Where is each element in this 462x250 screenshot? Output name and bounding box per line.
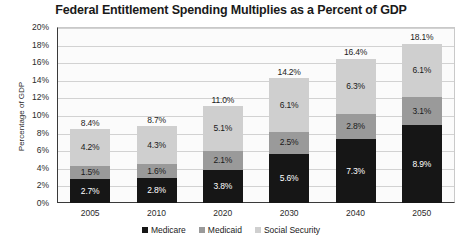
bar-segment-value-label: 2.7% [81, 187, 100, 196]
bar-segment-value-label: 6.1% [413, 66, 432, 75]
bar-segment-value-label: 8.9% [413, 160, 432, 169]
bar-stack: 6.3%2.8%7.3% [336, 59, 376, 203]
bar-segment[interactable]: 1.6% [137, 164, 177, 178]
y-axis-tick-label: 14% [32, 76, 49, 85]
bar-group[interactable]: 4.2%1.5%2.7%8.4% [70, 129, 110, 203]
bar-total-label: 8.7% [147, 116, 166, 125]
bar-segment-value-label: 5.1% [214, 124, 233, 133]
bar-total-label: 18.1% [410, 33, 433, 42]
y-axis-tick-label: 12% [32, 93, 49, 102]
bar-group[interactable]: 6.3%2.8%7.3%16.4% [336, 59, 376, 203]
legend-item[interactable]: Social Security [255, 226, 320, 235]
y-axis-tick-labels: 0%2%4%6%8%10%12%14%16%18%20% [0, 27, 53, 203]
x-axis-tick-label: 2020 [193, 208, 253, 218]
bar-segment-value-label: 2.8% [147, 186, 166, 195]
bar-segment-value-label: 5.6% [280, 174, 299, 183]
y-axis-tick-label: 20% [32, 23, 49, 32]
y-axis-tick-label: 16% [32, 58, 49, 67]
chart-container: Federal Entitlement Spending Multiplies … [0, 0, 462, 250]
y-axis-tick-label: 18% [32, 40, 49, 49]
bar-segment-value-label: 3.8% [214, 182, 233, 191]
bar-segment[interactable]: 8.9% [402, 125, 442, 203]
legend-item-label: Medicare [151, 226, 186, 235]
bar-group[interactable]: 5.1%2.1%3.8%11.0% [203, 106, 243, 203]
bar-segment[interactable]: 7.3% [336, 139, 376, 203]
bar-segment[interactable]: 6.1% [402, 44, 442, 98]
y-axis-tick-label: 6% [37, 146, 49, 155]
x-axis-tick-label: 2010 [127, 208, 187, 218]
bar-segment-value-label: 6.1% [280, 101, 299, 110]
bar-segment[interactable]: 3.1% [402, 97, 442, 124]
chart-title: Federal Entitlement Spending Multiplies … [0, 3, 462, 17]
x-axis-tick-label: 2030 [259, 208, 319, 218]
bar-segment[interactable]: 6.3% [336, 59, 376, 114]
y-axis-tick-label: 4% [37, 164, 49, 173]
x-axis-tick-labels: 200520102020203020402050 [57, 208, 455, 222]
y-axis-tick-label: 8% [37, 128, 49, 137]
legend-swatch-icon [255, 227, 261, 233]
bar-segment-value-label: 7.3% [346, 167, 365, 176]
bar-group[interactable]: 4.3%1.6%2.8%8.7% [137, 126, 177, 203]
bar-segment[interactable]: 2.7% [70, 179, 110, 203]
bar-total-label: 14.2% [278, 68, 301, 77]
bar-segment-value-label: 4.2% [81, 143, 100, 152]
bar-group[interactable]: 6.1%3.1%8.9%18.1% [402, 44, 442, 203]
legend-swatch-icon [199, 227, 205, 233]
y-axis-tick-label: 10% [32, 111, 49, 120]
bar-segment-value-label: 3.1% [413, 107, 432, 116]
bar-stack: 6.1%3.1%8.9% [402, 44, 442, 203]
bar-segment-value-label: 4.3% [147, 141, 166, 150]
bar-segment[interactable]: 2.1% [203, 151, 243, 169]
legend-item[interactable]: Medicare [142, 226, 186, 235]
legend-item-label: Medicaid [208, 226, 242, 235]
bar-segment-value-label: 2.1% [214, 156, 233, 165]
x-axis-tick-label: 2005 [60, 208, 120, 218]
legend-item-label: Social Security [264, 226, 320, 235]
bars-layer: 4.2%1.5%2.7%8.4%4.3%1.6%2.8%8.7%5.1%2.1%… [57, 27, 455, 203]
bar-segment-value-label: 2.8% [346, 122, 365, 131]
bar-segment[interactable]: 1.5% [70, 166, 110, 179]
bar-stack: 4.2%1.5%2.7% [70, 129, 110, 203]
bar-stack: 4.3%1.6%2.8% [137, 126, 177, 203]
chart-legend: MedicareMedicaidSocial Security [0, 226, 462, 235]
bar-total-label: 11.0% [212, 96, 234, 105]
bar-segment[interactable]: 2.5% [269, 132, 309, 154]
bar-segment[interactable]: 2.8% [336, 114, 376, 139]
bar-group[interactable]: 6.1%2.5%5.6%14.2% [269, 78, 309, 203]
bar-segment[interactable]: 5.1% [203, 106, 243, 151]
legend-item[interactable]: Medicaid [199, 226, 242, 235]
bar-segment[interactable]: 6.1% [269, 78, 309, 132]
legend-swatch-icon [142, 227, 148, 233]
bar-segment[interactable]: 4.3% [137, 126, 177, 164]
bar-stack: 5.1%2.1%3.8% [203, 106, 243, 203]
y-axis-tick-label: 0% [37, 199, 49, 208]
bar-segment[interactable]: 2.8% [137, 178, 177, 203]
bar-segment-value-label: 2.5% [280, 138, 299, 147]
x-axis-tick-label: 2050 [392, 208, 452, 218]
bar-total-label: 8.4% [81, 119, 100, 128]
x-axis-tick-label: 2040 [326, 208, 386, 218]
bar-segment-value-label: 1.6% [147, 167, 166, 176]
bar-segment-value-label: 6.3% [346, 82, 365, 91]
y-axis-tick-label: 2% [37, 181, 49, 190]
bar-segment-value-label: 1.5% [81, 168, 100, 177]
bar-segment[interactable]: 3.8% [203, 170, 243, 203]
bar-segment[interactable]: 5.6% [269, 154, 309, 203]
bar-segment[interactable]: 4.2% [70, 129, 110, 166]
bar-total-label: 16.4% [344, 48, 367, 57]
bar-stack: 6.1%2.5%5.6% [269, 78, 309, 203]
